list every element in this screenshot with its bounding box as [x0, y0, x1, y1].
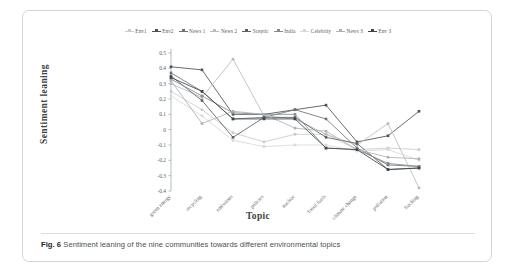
x-axis-tick-label: nuclear — [280, 193, 296, 209]
series-point — [201, 122, 204, 125]
series-point — [170, 79, 173, 82]
series-point — [387, 148, 390, 151]
series-point — [325, 133, 328, 136]
series-point — [201, 69, 204, 72]
series-point — [232, 58, 235, 61]
y-axis-tick-label: -0.1 — [157, 142, 166, 148]
series-point — [356, 142, 359, 145]
series-point — [263, 145, 266, 148]
series-point — [294, 108, 297, 111]
y-axis-tick-label: -0.2 — [157, 157, 166, 163]
x-axis-tick-label: fracking — [403, 193, 420, 210]
y-axis-tick-label: -0.4 — [157, 188, 166, 194]
series-point — [232, 110, 235, 113]
series-point — [170, 66, 173, 69]
figure-label: Fig. 6 — [41, 240, 61, 249]
series-point — [387, 122, 390, 125]
series-point — [294, 113, 297, 116]
series-point — [170, 72, 173, 75]
series-point — [418, 158, 421, 161]
series-point — [170, 90, 173, 93]
y-axis-tick-label: 0 — [163, 127, 166, 133]
figure-card: Env1Env2News 1News 2ScepticIndiaCelebrit… — [22, 10, 492, 262]
series-point — [201, 108, 204, 111]
series-point — [356, 148, 359, 151]
series-point — [201, 99, 204, 102]
y-axis-tick-label: 0.5 — [159, 50, 166, 56]
series-point — [387, 135, 390, 138]
series-point — [201, 115, 204, 118]
y-axis-tick-label: 0.3 — [159, 81, 166, 87]
caption-divider — [41, 233, 475, 234]
figure-caption: Fig. 6 Sentiment leaning of the nine com… — [41, 239, 477, 250]
series-point — [232, 131, 235, 134]
y-axis-tick-label: 0.2 — [159, 96, 166, 102]
series-point — [325, 118, 328, 121]
series-point — [294, 118, 297, 121]
x-axis-tick-label: recycling — [184, 193, 203, 212]
series-point — [170, 76, 173, 79]
series-point — [170, 82, 173, 85]
x-axis-tick-label: climate change — [330, 193, 358, 221]
series-point — [263, 113, 266, 116]
series-point — [294, 127, 297, 130]
y-axis-tick-label: 0.4 — [159, 65, 166, 71]
series-point — [201, 95, 204, 98]
series-point — [325, 147, 328, 150]
series-point — [325, 104, 328, 107]
series-point — [232, 118, 235, 121]
series-line-india — [171, 79, 419, 166]
series-point — [201, 90, 204, 93]
series-point — [387, 168, 390, 171]
y-axis-tick-label: 0.1 — [159, 111, 166, 117]
chart-plot-area: Env1Env2News 1News 2ScepticIndiaCelebrit… — [23, 11, 493, 229]
series-point — [325, 144, 328, 147]
series-point — [418, 167, 421, 170]
x-axis-tick-label: policies — [249, 193, 265, 209]
x-axis-tick-label: pollution — [371, 193, 389, 211]
series-point — [263, 141, 266, 144]
y-axis-tick-label: -0.3 — [157, 173, 166, 179]
series-point — [170, 95, 173, 98]
series-point — [325, 130, 328, 133]
series-point — [418, 148, 421, 151]
figure-caption-text: Sentiment leaning of the nine communitie… — [63, 240, 340, 249]
x-axis-tick-label: emissions — [214, 193, 233, 212]
series-point — [325, 136, 328, 139]
series-point — [232, 139, 235, 142]
series-point — [294, 144, 297, 147]
series-point — [263, 118, 266, 121]
series-point — [387, 162, 390, 165]
x-axis-tick-label: fossil fuels — [306, 193, 327, 214]
series-point — [387, 156, 390, 159]
series-point — [232, 136, 235, 139]
x-axis-tick-label: green energy — [148, 193, 172, 217]
series-line-env2 — [171, 67, 419, 142]
series-point — [294, 133, 297, 136]
series-point — [418, 110, 421, 113]
line-chart: 0.50.40.30.20.10-0.1-0.2-0.3-0.4green en… — [23, 11, 493, 229]
series-point — [418, 187, 421, 190]
